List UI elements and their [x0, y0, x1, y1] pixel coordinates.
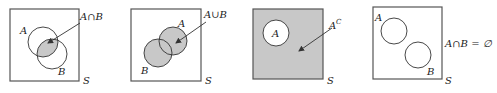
set-b-label: B [426, 66, 434, 77]
set-a-label: A [19, 25, 27, 36]
complement-annotation-base: A [328, 20, 336, 31]
annotation-arrow [48, 23, 80, 43]
venn-diagrams-figure: A B A∩B S A B A∪B S A A C S A B A∩B = ∅ … [0, 0, 497, 93]
intersection-annotation: A∩B [79, 11, 103, 22]
universe-rect-shaded [253, 9, 323, 79]
universe-label: S [445, 75, 452, 86]
set-a-circle [381, 18, 407, 44]
panel-complement: A A C S [253, 9, 342, 86]
set-b-circle [405, 42, 431, 68]
panel-intersection: A B A∩B S [10, 9, 103, 86]
universe-label: S [205, 75, 212, 86]
panel-union: A B A∪B S [131, 9, 227, 86]
disjoint-annotation: A∩B = ∅ [444, 38, 493, 49]
universe-label: S [327, 75, 334, 86]
universe-label: S [83, 75, 90, 86]
panel-disjoint: A B A∩B = ∅ S [373, 7, 493, 86]
set-a-label: A [271, 28, 279, 39]
set-a-label: A [374, 12, 382, 23]
union-annotation: A∪B [203, 9, 227, 20]
set-a-label: A [177, 18, 185, 29]
set-b-label: B [140, 65, 148, 76]
set-b-label: B [57, 66, 65, 77]
complement-annotation-sup: C [336, 18, 342, 26]
